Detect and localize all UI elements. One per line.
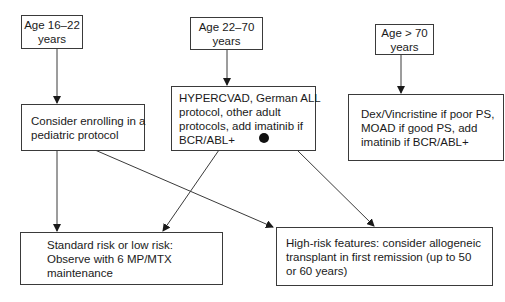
arrow-hypercvad-to-standard (163, 150, 219, 231)
node-text: Dex/Vincristine if poor PS, (361, 107, 495, 121)
node-dex-vincristine: Dex/Vincristine if poor PS, MOAD if good… (348, 94, 504, 161)
node-text: Standard risk or low risk: (47, 238, 214, 252)
node-text: years (212, 34, 240, 48)
node-text: imatinib if BCR/ABL+ (361, 135, 495, 149)
node-age-16-22: Age 16–22 years (21, 15, 83, 49)
node-high-risk: High-risk features: consider allogeneic … (276, 227, 493, 286)
bullet-dot-icon (259, 133, 269, 143)
node-standard-risk: Standard risk or low risk: Observe with … (20, 232, 223, 285)
node-age-over-70: Age > 70 years (375, 24, 434, 55)
node-text: protocol, other adult (179, 105, 307, 119)
node-text: maintenance (47, 266, 214, 280)
node-text: or 60 years) (286, 264, 484, 278)
node-text: Observe with 6 MP/MTX (47, 252, 214, 266)
node-text: pediatric protocol (31, 128, 136, 142)
node-text: protocols, add imatinib if (179, 119, 307, 133)
node-hypercvad: HYPERCVAD, German ALL protocol, other ad… (171, 86, 316, 151)
node-text: transplant in first remission (up to 50 (286, 250, 484, 264)
arrow-pediatric-to-highrisk (95, 150, 273, 227)
node-text: Age 16–22 (24, 18, 80, 32)
node-text: HYPERCVAD, German ALL (179, 91, 307, 105)
node-age-22-70: Age 22–70 years (190, 17, 263, 50)
node-pediatric-protocol: Consider enrolling in a pediatric protoc… (21, 104, 145, 151)
node-text: MOAD if good PS, add (361, 121, 495, 135)
node-text: years (390, 40, 418, 54)
node-text: High-risk features: consider allogeneic (286, 236, 484, 250)
node-text: Age 22–70 (199, 20, 255, 34)
node-text: Consider enrolling in a (31, 114, 136, 128)
node-text: Age > 70 (381, 26, 427, 40)
node-text: years (38, 32, 66, 46)
arrow-hypercvad-to-highrisk (297, 150, 374, 226)
node-text: BCR/ABL+ (179, 133, 307, 147)
